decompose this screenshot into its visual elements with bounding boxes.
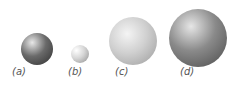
sphere-c [109, 17, 157, 65]
sphere-d [169, 9, 227, 67]
label-c: (c) [115, 66, 128, 77]
label-a: (a) [12, 66, 26, 77]
label-b: (b) [68, 66, 82, 77]
sphere-b [71, 45, 89, 63]
label-d: (d) [180, 66, 194, 77]
sphere-a [21, 33, 53, 65]
